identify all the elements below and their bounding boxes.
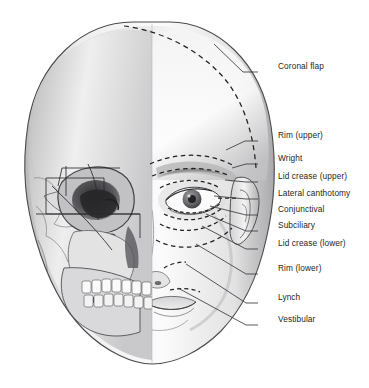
label-lid-crease-lower: Lid crease (lower) bbox=[278, 239, 346, 248]
label-lynch: Lynch bbox=[278, 293, 300, 302]
illustration-figure: Coronal flapRim (upper)WrightLid crease … bbox=[0, 0, 369, 388]
label-lid-crease-upper: Lid crease (upper) bbox=[278, 172, 347, 181]
label-wright: Wright bbox=[278, 154, 302, 163]
label-vestibular: Vestibular bbox=[278, 315, 315, 324]
label-subciliary: Subciliary bbox=[278, 221, 315, 230]
label-lateral-canthotomy: Lateral canthotomy bbox=[278, 189, 350, 198]
label-coronal-flap: Coronal flap bbox=[278, 62, 324, 71]
label-rim-lower: Rim (lower) bbox=[278, 264, 322, 273]
label-rim-upper: Rim (upper) bbox=[278, 131, 323, 140]
label-conjunctival: Conjunctival bbox=[278, 205, 324, 214]
